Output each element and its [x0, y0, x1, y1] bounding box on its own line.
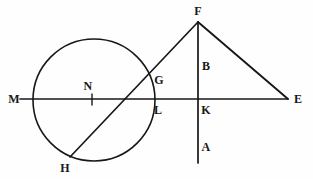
label-N: N [84, 80, 93, 92]
label-A: A [202, 141, 211, 153]
diagram-canvas [0, 0, 313, 179]
label-L: L [154, 104, 162, 116]
label-B: B [202, 60, 210, 72]
triangle-side-FE [198, 22, 288, 99]
geometry-figure: MNGLKEFBAH [0, 0, 313, 179]
circle-shape [33, 39, 155, 161]
label-G: G [154, 74, 164, 86]
label-M: M [8, 93, 20, 105]
label-E: E [294, 93, 302, 105]
label-H: H [60, 162, 70, 174]
label-K: K [201, 104, 211, 116]
label-F: F [194, 5, 202, 17]
